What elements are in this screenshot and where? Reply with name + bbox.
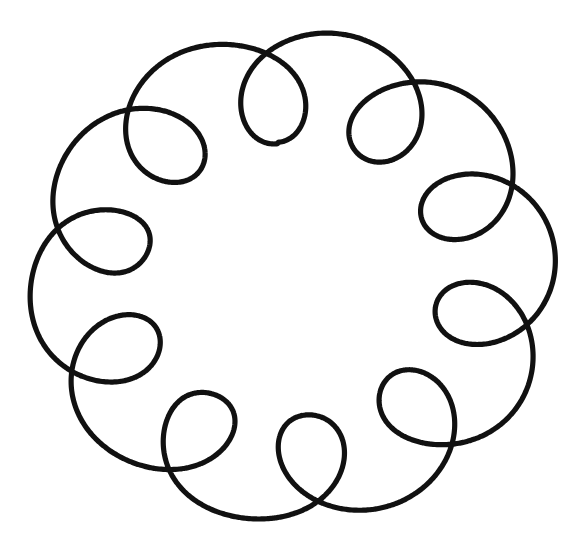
canvas-background bbox=[0, 0, 578, 550]
drawing-canvas bbox=[0, 0, 578, 550]
rosette-figure bbox=[0, 0, 578, 550]
